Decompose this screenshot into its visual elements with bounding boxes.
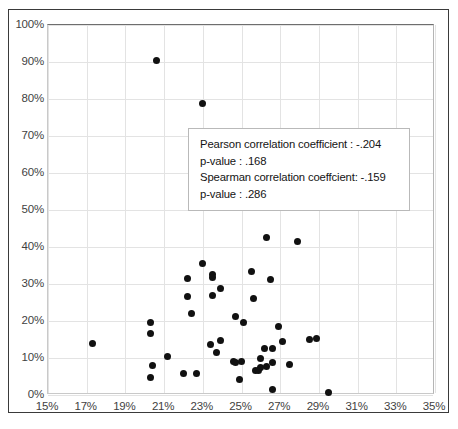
data-point [267,276,274,283]
y-axis-tick-label: 40% [0,240,44,252]
data-point [240,319,247,326]
pearson-coefficient-line: Pearson correlation coefficient : -.204 [200,136,398,153]
y-axis-tick-label: 70% [0,129,44,141]
y-axis-tick-label: 10% [0,351,44,363]
x-axis-tick-label: 27% [257,400,301,412]
data-point [269,386,276,393]
data-point [248,268,255,275]
data-point [286,361,293,368]
x-axis-tick-label: 23% [180,400,224,412]
gridline-vertical [164,25,165,393]
x-axis-tick-label: 21% [141,400,185,412]
gridline-horizontal [48,25,433,26]
gridline-horizontal [48,62,433,63]
data-point [147,374,154,381]
data-point [275,323,282,330]
pearson-pvalue-line: p-value : .168 [200,153,398,170]
data-point [89,340,96,347]
gridline-horizontal [48,395,433,396]
y-axis-tick-label: 90% [0,55,44,67]
data-point [306,336,313,343]
data-point [207,341,214,348]
spearman-coefficient-line: Spearman correlation coeffcient: -.159 [200,169,398,186]
y-axis-tick-label: 50% [0,203,44,215]
gridline-vertical [125,25,126,393]
x-axis-tick-label: 17% [64,400,108,412]
gridline-horizontal [48,99,433,100]
data-point [193,370,200,377]
data-point [199,100,206,107]
y-axis: 0%10%20%30%40%50%60%70%80%90%100% [0,24,44,394]
data-point [325,389,332,396]
spearman-pvalue-line: p-value : .286 [200,186,398,203]
data-point [250,295,257,302]
data-point [199,260,206,267]
data-point [147,330,154,337]
data-point [255,367,262,374]
data-point [188,310,195,317]
data-point [236,376,243,383]
data-point [263,234,270,241]
x-axis-tick-label: 31% [335,400,379,412]
data-point [257,355,264,362]
data-point [213,349,220,356]
gridline-horizontal [48,284,433,285]
data-point [294,238,301,245]
gridline-vertical [87,25,88,393]
y-axis-tick-label: 30% [0,277,44,289]
gridline-vertical [48,25,49,393]
y-axis-tick-label: 0% [0,388,44,400]
data-point [184,275,191,282]
data-point [269,345,276,352]
data-point [184,293,191,300]
gridline-horizontal [48,247,433,248]
y-axis-tick-label: 100% [0,18,44,30]
x-axis-tick-label: 15% [25,400,69,412]
x-axis-tick-label: 19% [102,400,146,412]
x-axis-tick-label: 25% [219,400,263,412]
y-axis-tick-label: 20% [0,314,44,326]
data-point [238,358,245,365]
data-point [209,274,216,281]
data-point [149,362,156,369]
statistics-annotation-box: Pearson correlation coefficient : -.204 … [188,128,410,211]
data-point [263,363,270,370]
data-point [153,57,160,64]
x-axis-tick-label: 29% [296,400,340,412]
data-point [269,359,276,366]
data-point [261,345,268,352]
data-point [279,338,286,345]
y-axis-tick-label: 60% [0,166,44,178]
x-axis-tick-label: 33% [373,400,417,412]
data-point [232,313,239,320]
data-point [147,319,154,326]
data-point [217,337,224,344]
data-point [180,370,187,377]
x-axis-tick-label: 35% [412,400,456,412]
data-point [209,292,216,299]
gridline-vertical [435,25,436,393]
y-axis-tick-label: 80% [0,92,44,104]
x-axis: 15%17%19%21%23%25%27%29%31%33%35% [47,400,434,420]
scatter-plot-figure: 0%10%20%30%40%50%60%70%80%90%100% 15%17%… [0,0,458,429]
data-point [217,285,224,292]
